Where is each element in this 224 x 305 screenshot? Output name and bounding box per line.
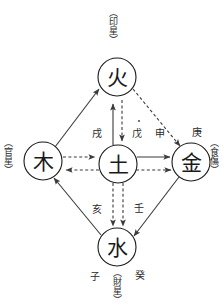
outer-label-right: （食傷）: [209, 138, 218, 174]
outer-label-left: （官星）: [3, 138, 12, 174]
outer-label-bottom: （財星）: [112, 268, 121, 304]
node-fire[interactable]: 火: [98, 58, 136, 96]
earth-wood-edges: [63, 157, 99, 170]
node-fire-label: 火: [107, 66, 128, 90]
five-elements-diagram: 火 木 土 金 水 戌 戊 申 庚 亥 壬 子 癸 （印星）: [0, 0, 224, 305]
node-earth[interactable]: 土: [99, 145, 137, 183]
diagram-canvas: 火 木 土 金 水 戌 戊 申 庚 亥 壬 子 癸: [0, 0, 224, 305]
outer-label-top: （印星）: [108, 8, 117, 44]
earth-water-edges: [113, 183, 123, 226]
label-xu: 戌: [92, 127, 102, 139]
label-geng: 庚: [192, 126, 202, 138]
label-shen: 申: [155, 127, 165, 139]
node-metal-label: 金: [181, 151, 202, 175]
label-gui: 癸: [135, 269, 145, 281]
earth-fire-edges: [113, 100, 122, 145]
node-earth-label: 土: [108, 153, 129, 177]
label-ren: 壬: [134, 203, 144, 214]
node-water-label: 水: [107, 236, 128, 260]
node-wood-label: 木: [33, 150, 54, 174]
label-zi: 子: [90, 271, 100, 282]
node-metal[interactable]: 金: [172, 143, 210, 181]
node-water[interactable]: 水: [98, 228, 136, 266]
label-wu: 戊: [132, 128, 142, 139]
small-dot-mark: [138, 120, 140, 122]
label-hai: 亥: [92, 203, 102, 215]
earth-metal-edges: [136, 157, 171, 170]
node-wood[interactable]: 木: [24, 142, 62, 180]
